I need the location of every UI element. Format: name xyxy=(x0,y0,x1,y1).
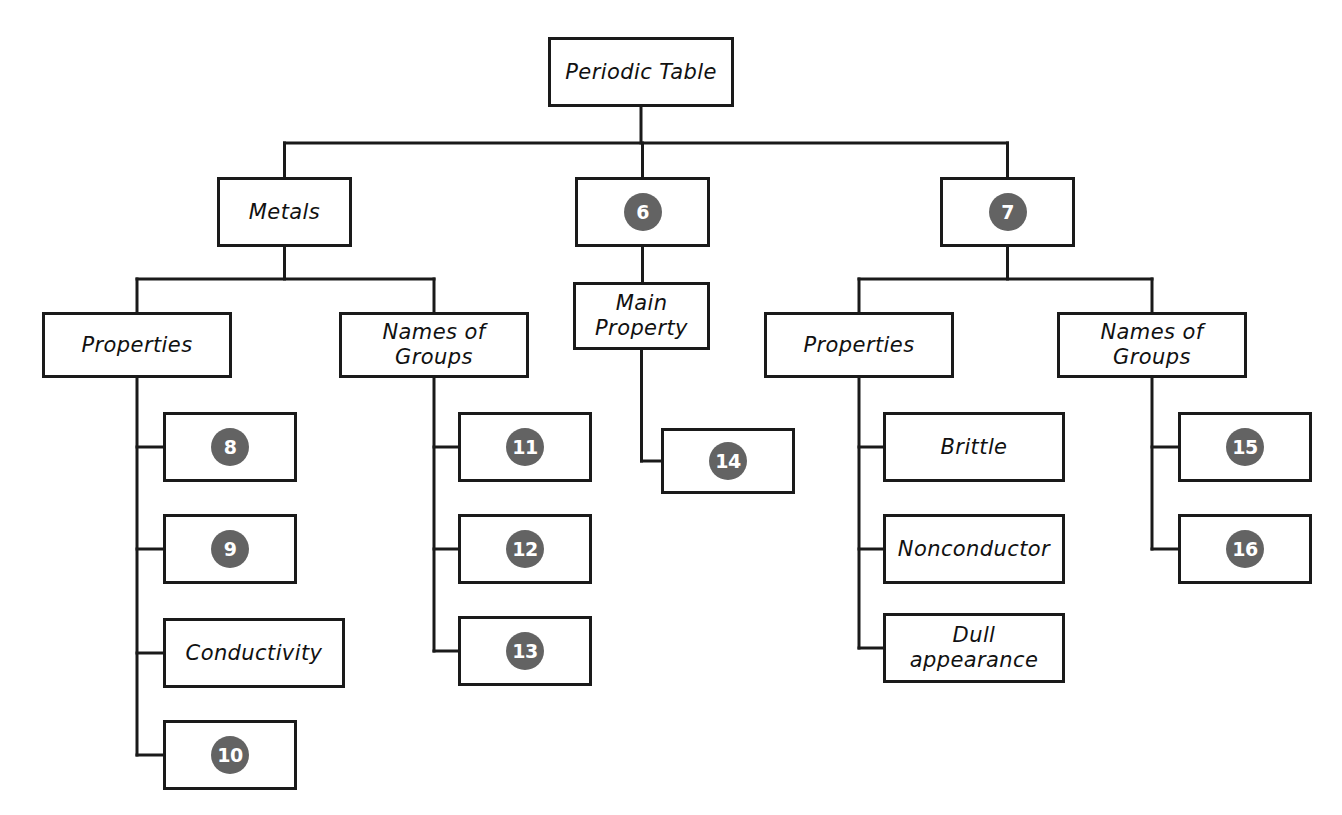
concept-map-diagram: Periodic TableMetals67PropertiesNames of… xyxy=(0,0,1342,815)
node-label: Properties xyxy=(76,333,199,358)
node-dull[interactable]: Dull appearance xyxy=(883,613,1065,683)
node-label: Properties xyxy=(798,333,921,358)
node-label: Dull appearance xyxy=(904,623,1045,673)
number-badge-icon: 12 xyxy=(506,530,544,568)
node-brittle[interactable]: Brittle xyxy=(883,412,1065,482)
node-n6[interactable]: 6 xyxy=(575,177,710,247)
number-badge-icon: 8 xyxy=(211,428,249,466)
node-n12[interactable]: 12 xyxy=(458,514,592,584)
node-n14[interactable]: 14 xyxy=(661,428,795,494)
connector-lines xyxy=(0,0,1342,815)
node-n11[interactable]: 11 xyxy=(458,412,592,482)
node-metals-props[interactable]: Properties xyxy=(42,312,232,378)
number-badge-icon: 13 xyxy=(506,632,544,670)
node-n15[interactable]: 15 xyxy=(1178,412,1312,482)
node-nm-groups[interactable]: Names of Groups xyxy=(1057,312,1247,378)
node-label: Names of Groups xyxy=(376,320,491,370)
node-n9[interactable]: 9 xyxy=(163,514,297,584)
number-badge-icon: 9 xyxy=(211,530,249,568)
node-n13[interactable]: 13 xyxy=(458,616,592,686)
node-label: Nonconductor xyxy=(892,537,1056,562)
number-badge-icon: 6 xyxy=(624,193,662,231)
node-metals[interactable]: Metals xyxy=(217,177,352,247)
node-label: Main Property xyxy=(589,291,694,341)
node-label: Metals xyxy=(243,200,326,225)
node-label: Brittle xyxy=(935,435,1014,460)
node-n16[interactable]: 16 xyxy=(1178,514,1312,584)
node-label: Conductivity xyxy=(180,641,329,666)
node-label: Names of Groups xyxy=(1094,320,1209,370)
number-badge-icon: 15 xyxy=(1226,428,1264,466)
number-badge-icon: 14 xyxy=(709,442,747,480)
number-badge-icon: 7 xyxy=(989,193,1027,231)
number-badge-icon: 10 xyxy=(211,736,249,774)
node-root[interactable]: Periodic Table xyxy=(548,37,734,107)
node-nm-props[interactable]: Properties xyxy=(764,312,954,378)
node-n10[interactable]: 10 xyxy=(163,720,297,790)
node-metals-groups[interactable]: Names of Groups xyxy=(339,312,529,378)
node-label: Periodic Table xyxy=(559,60,722,85)
node-nonconductor[interactable]: Nonconductor xyxy=(883,514,1065,584)
node-n7[interactable]: 7 xyxy=(940,177,1075,247)
number-badge-icon: 11 xyxy=(506,428,544,466)
node-conductivity[interactable]: Conductivity xyxy=(163,618,345,688)
node-main-property[interactable]: Main Property xyxy=(573,282,710,350)
number-badge-icon: 16 xyxy=(1226,530,1264,568)
node-n8[interactable]: 8 xyxy=(163,412,297,482)
